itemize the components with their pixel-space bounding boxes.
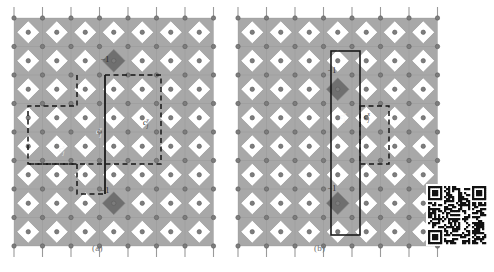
label-minus-one-top: −1 bbox=[328, 66, 337, 75]
qr-module bbox=[434, 230, 436, 232]
lattice-node bbox=[236, 158, 240, 162]
lattice-node bbox=[12, 73, 16, 77]
qr-module bbox=[440, 196, 442, 198]
qr-module bbox=[446, 194, 448, 196]
qr-module bbox=[428, 214, 430, 216]
lattice-node bbox=[97, 158, 101, 162]
lattice-node bbox=[26, 230, 30, 234]
qr-module bbox=[476, 198, 478, 200]
qr-module bbox=[464, 210, 466, 212]
qr-module bbox=[474, 212, 476, 214]
lattice-node bbox=[321, 158, 325, 162]
lattice-node bbox=[69, 215, 73, 219]
lattice-node bbox=[140, 144, 144, 148]
qr-module bbox=[478, 232, 480, 234]
lattice-node bbox=[154, 44, 158, 48]
qr-module bbox=[468, 188, 470, 190]
qr-module bbox=[472, 204, 474, 206]
qr-module bbox=[468, 204, 470, 206]
qr-module bbox=[474, 240, 476, 242]
qr-module bbox=[466, 198, 468, 200]
lattice-node bbox=[69, 73, 73, 77]
qr-module bbox=[468, 208, 470, 210]
qr-module bbox=[476, 236, 478, 238]
qr-module bbox=[440, 226, 442, 228]
lattice-node bbox=[197, 59, 201, 63]
lattice-node bbox=[40, 16, 44, 20]
lattice-node bbox=[250, 116, 254, 120]
qr-module bbox=[428, 232, 430, 234]
lattice-node bbox=[321, 187, 325, 191]
lattice-node bbox=[435, 101, 439, 105]
lattice-node bbox=[321, 16, 325, 20]
lattice-node bbox=[26, 87, 30, 91]
lattice-node bbox=[307, 230, 311, 234]
qr-module bbox=[472, 186, 474, 188]
qr-module bbox=[428, 242, 430, 244]
qr-module bbox=[478, 198, 480, 200]
qr-module bbox=[468, 232, 470, 234]
lattice-node bbox=[69, 244, 73, 248]
qr-module bbox=[476, 218, 478, 220]
lattice-node bbox=[236, 215, 240, 219]
lattice-node bbox=[83, 144, 87, 148]
qr-module bbox=[442, 226, 444, 228]
lattice-node bbox=[183, 215, 187, 219]
lattice-node bbox=[211, 187, 215, 191]
lattice-node bbox=[169, 116, 173, 120]
qr-module bbox=[436, 198, 438, 200]
lattice-node bbox=[83, 201, 87, 205]
qr-module bbox=[480, 222, 482, 224]
qr-module bbox=[474, 234, 476, 236]
lattice-node bbox=[321, 44, 325, 48]
qr-module bbox=[468, 224, 470, 226]
lattice-node bbox=[69, 187, 73, 191]
lattice-node bbox=[264, 244, 268, 248]
qr-module bbox=[432, 234, 434, 236]
lattice-node bbox=[236, 187, 240, 191]
qr-module bbox=[464, 204, 466, 206]
lattice-node bbox=[350, 130, 354, 134]
qr-module bbox=[454, 228, 456, 230]
lattice-node bbox=[350, 16, 354, 20]
qr-module bbox=[438, 218, 440, 220]
lattice-node bbox=[26, 201, 30, 205]
lattice-node bbox=[40, 158, 44, 162]
qr-module bbox=[452, 190, 454, 192]
lattice-node bbox=[378, 187, 382, 191]
qr-module bbox=[430, 208, 432, 210]
qr-module bbox=[452, 214, 454, 216]
lattice-node bbox=[264, 16, 268, 20]
qr-module bbox=[440, 198, 442, 200]
qr-module bbox=[460, 204, 462, 206]
qr-module bbox=[460, 202, 462, 204]
lattice-b bbox=[236, 7, 440, 257]
lattice-node bbox=[264, 73, 268, 77]
lattice-node bbox=[126, 101, 130, 105]
qr-module bbox=[438, 186, 440, 188]
qr-module bbox=[480, 186, 482, 188]
lattice-node bbox=[307, 30, 311, 34]
qr-module bbox=[476, 192, 478, 194]
qr-module bbox=[446, 192, 448, 194]
qr-module bbox=[446, 208, 448, 210]
qr-module bbox=[456, 188, 458, 190]
qr-module bbox=[458, 228, 460, 230]
lattice-node bbox=[293, 101, 297, 105]
qr-module bbox=[462, 242, 464, 244]
label-minus-one-bottom: −1 bbox=[328, 184, 337, 193]
qr-module bbox=[428, 202, 430, 204]
qr-module bbox=[476, 190, 478, 192]
lattice-node bbox=[264, 158, 268, 162]
qr-module bbox=[450, 200, 452, 202]
qr-module bbox=[456, 228, 458, 230]
qr-module bbox=[428, 208, 430, 210]
qr-module bbox=[430, 198, 432, 200]
lattice-node bbox=[293, 158, 297, 162]
qr-module bbox=[438, 198, 440, 200]
qr-module bbox=[446, 230, 448, 232]
qr-module bbox=[476, 210, 478, 212]
lattice-node bbox=[83, 87, 87, 91]
lattice-node bbox=[293, 187, 297, 191]
qr-module bbox=[452, 186, 454, 188]
